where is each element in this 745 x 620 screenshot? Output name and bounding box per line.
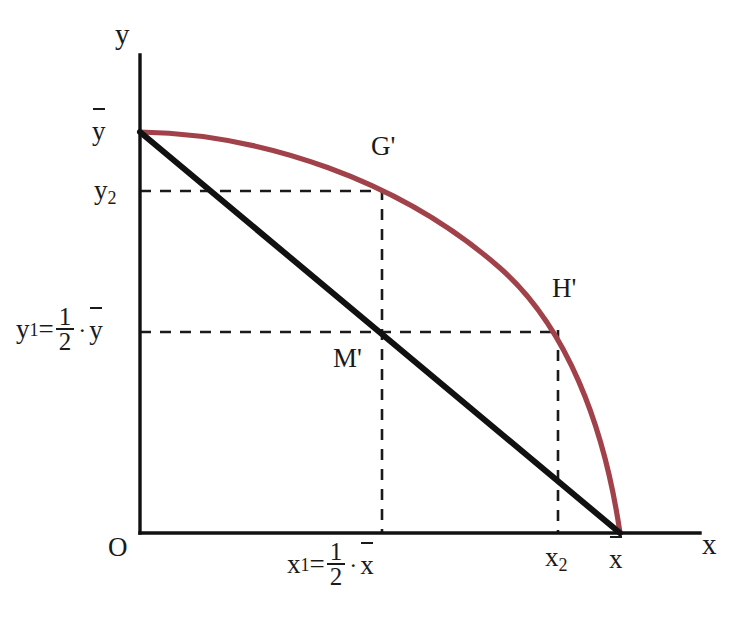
x1-lhs: x bbox=[287, 551, 301, 578]
x1-operator: · bbox=[349, 553, 357, 577]
x2-tick-label: x2 bbox=[545, 544, 568, 574]
diagram-canvas: y x O y y2 y1 = 1 2 · y x1 = 1 2 · bbox=[0, 0, 745, 620]
y1-operator: · bbox=[78, 318, 86, 342]
y-axis-label: y bbox=[115, 20, 130, 49]
point-label-h-prime: H' bbox=[552, 275, 576, 302]
x-bar-glyph: x bbox=[609, 544, 623, 573]
axes bbox=[140, 55, 700, 533]
point-label-g-prime: G' bbox=[371, 133, 395, 160]
y1-fraction-denominator: 2 bbox=[56, 328, 75, 355]
y-bar-tick-label: y bbox=[92, 116, 106, 145]
y2-base: y bbox=[94, 175, 108, 205]
y2-subscript: 2 bbox=[108, 188, 117, 208]
x2-base: x bbox=[545, 542, 559, 572]
x1-fraction-denominator: 2 bbox=[327, 563, 346, 590]
x1-expression-row: x1 = 1 2 · x bbox=[287, 540, 374, 590]
x1-equals: = bbox=[310, 551, 325, 578]
figure-svg bbox=[0, 0, 745, 620]
y2-tick-label: y2 bbox=[94, 177, 117, 207]
y1-lhs: y bbox=[16, 316, 30, 343]
y1-fraction-numerator: 1 bbox=[56, 305, 75, 328]
origin-label: O bbox=[108, 534, 128, 561]
y1-rhs-y-bar: y bbox=[89, 315, 103, 344]
x-bar-tick-label: x bbox=[609, 544, 623, 573]
y1-fraction: 1 2 bbox=[56, 305, 75, 355]
x2-subscript: 2 bbox=[559, 555, 568, 575]
y1-equals: = bbox=[39, 316, 54, 343]
y1-expression-row: y1 = 1 2 · y bbox=[16, 305, 103, 355]
x1-fraction-numerator: 1 bbox=[327, 540, 346, 563]
y1-expression-label: y1 = 1 2 · y bbox=[16, 305, 103, 355]
y-bar-glyph: y bbox=[92, 116, 106, 145]
x-axis-label: x bbox=[702, 530, 717, 559]
x1-expression-label: x1 = 1 2 · x bbox=[287, 540, 374, 590]
x1-fraction: 1 2 bbox=[327, 540, 346, 590]
x1-lhs-subscript: 1 bbox=[301, 556, 310, 574]
y1-lhs-subscript: 1 bbox=[30, 321, 39, 339]
x1-rhs-x-bar: x bbox=[360, 550, 374, 579]
point-label-m-prime: M' bbox=[333, 345, 362, 372]
